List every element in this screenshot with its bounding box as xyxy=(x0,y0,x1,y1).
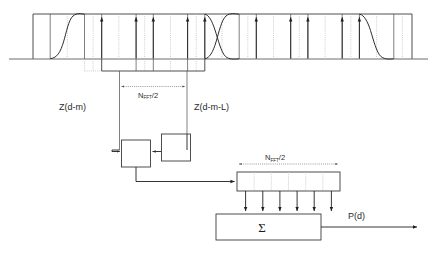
summation-box[interactable] xyxy=(216,214,321,240)
output-label: P(d) xyxy=(348,211,365,221)
fft-bin-register: NFFT/2 xyxy=(237,153,340,191)
summer-block: Σ xyxy=(216,214,321,240)
tap-bracket xyxy=(85,59,205,71)
block-diagram-svg: NFFT/2 Z(d-m) Z(d-m-L) NFFT/2 xyxy=(0,0,434,259)
sigma-symbol: Σ xyxy=(258,220,266,235)
correlator-box-left[interactable] xyxy=(122,140,151,167)
nfft-bottom-label: NFFT/2 xyxy=(265,153,285,163)
register-feed-route xyxy=(136,167,235,182)
nfft-top-label: NFFT/2 xyxy=(138,91,158,101)
figure-canvas: NFFT/2 Z(d-m) Z(d-m-L) NFFT/2 xyxy=(0,0,434,259)
waveform-panel xyxy=(9,14,428,59)
bin-output-arrows xyxy=(246,191,332,211)
processing-boxes xyxy=(112,134,191,167)
z-right-label: Z(d-m-L) xyxy=(194,102,229,112)
correlator-box-right[interactable] xyxy=(162,134,191,161)
z-left-label: Z(d-m) xyxy=(59,102,86,112)
segment-dotted-grid xyxy=(67,14,402,59)
impulse-arrows-right xyxy=(256,18,359,59)
output-branch: P(d) xyxy=(321,211,417,227)
impulse-arrows-left xyxy=(102,18,205,59)
